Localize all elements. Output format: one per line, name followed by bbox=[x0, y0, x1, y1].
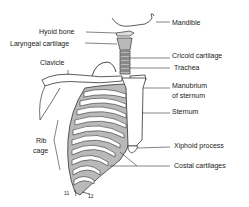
thorax-diagram bbox=[0, 0, 249, 207]
scapula bbox=[40, 86, 60, 120]
mandible bbox=[112, 14, 154, 27]
label-xiphoid-process: Xiphoid process bbox=[174, 142, 224, 149]
label-rib-cage-line1: Rib bbox=[36, 137, 47, 144]
trachea bbox=[120, 51, 130, 74]
hyoid-bone bbox=[116, 31, 134, 36]
label-manubrium-line2: of sternum bbox=[172, 92, 205, 99]
clavicle bbox=[42, 74, 122, 86]
laryngeal-cartilage bbox=[117, 38, 132, 50]
label-manubrium-line1: Manubrium bbox=[172, 82, 207, 89]
first-rib bbox=[92, 62, 116, 76]
label-trachea: Trachea bbox=[174, 64, 199, 71]
label-mandible: Mandible bbox=[172, 19, 200, 26]
label-laryngeal-cartilage: Laryngeal cartilage bbox=[10, 40, 69, 47]
label-costal-cartilages: Costal cartilages bbox=[174, 162, 226, 169]
label-cricoid-cartilage: Cricoid cartilage bbox=[172, 52, 222, 59]
xiphoid-shape bbox=[128, 146, 138, 153]
label-hyoid-bone: Hyoid bone bbox=[39, 28, 74, 35]
label-clavicle: Clavicle bbox=[40, 59, 65, 66]
label-sternum: Sternum bbox=[172, 108, 198, 115]
label-rib-cage-line2: cage bbox=[33, 147, 48, 154]
label-rib-11: 11 bbox=[64, 191, 69, 196]
label-rib-12: 12 bbox=[88, 194, 94, 199]
